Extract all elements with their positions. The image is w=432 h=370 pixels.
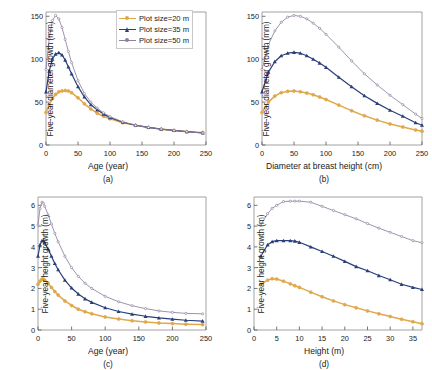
series-marker (157, 321, 160, 324)
plot-area-d: 051015202530350123456 (216, 185, 432, 370)
series-marker (415, 113, 417, 115)
series-marker (319, 27, 321, 29)
series-marker (185, 312, 187, 314)
series-line (262, 91, 422, 131)
series-marker (53, 290, 56, 293)
series-marker (90, 312, 93, 315)
x-tick-label: 100 (320, 149, 332, 158)
series-marker (104, 315, 107, 318)
series-marker (280, 91, 283, 94)
x-tick-label: 30 (386, 334, 394, 343)
x-tick-label: 20 (341, 334, 349, 343)
y-tick-label: 2 (232, 284, 251, 293)
x-tick-label: 250 (416, 149, 428, 158)
y-tick-label: 0 (232, 326, 251, 335)
y-tick-label: 0 (16, 326, 35, 335)
series-line (38, 241, 203, 321)
series-marker (310, 201, 312, 203)
series-marker (267, 213, 269, 215)
series-marker (282, 280, 285, 283)
series-marker (351, 60, 353, 62)
x-tick-label: 50 (290, 149, 298, 158)
series-marker (57, 241, 59, 243)
series-marker (77, 308, 80, 311)
y-axis-label-c: Five-year height growth (m) (40, 199, 50, 329)
series-marker (37, 224, 39, 226)
x-tick-label: 5 (275, 334, 279, 343)
series-marker (147, 126, 149, 128)
x-tick-label: 100 (104, 149, 116, 158)
series-marker (184, 323, 187, 326)
series-marker (96, 107, 98, 109)
series-marker (414, 128, 417, 131)
series-marker (306, 18, 308, 20)
series-marker (401, 125, 404, 128)
x-axis-label-b: Diameter at breast height (cm) (216, 161, 432, 171)
x-tick-label: 25 (363, 334, 371, 343)
series-marker (389, 94, 391, 96)
series-marker (50, 223, 52, 225)
series-marker (338, 46, 340, 48)
series-marker (402, 104, 404, 106)
y-tick-label: 0 (240, 141, 259, 150)
plot-area-b: 050100150200250050100150 (216, 0, 432, 185)
series-marker (344, 214, 346, 216)
series-marker (400, 318, 403, 321)
series-marker (96, 112, 99, 115)
subplot-d: 051015202530350123456 Five-year height g… (216, 185, 432, 370)
figure-panel-grid: 050100150200250050100150 Five-year diame… (0, 0, 432, 370)
y-tick-label: 3 (16, 263, 35, 272)
series-marker (271, 277, 274, 280)
y-tick-label: 4 (16, 242, 35, 251)
series-marker (158, 310, 160, 312)
series-marker (66, 65, 70, 69)
series-marker (276, 204, 278, 206)
series-marker (77, 275, 79, 277)
series-marker (332, 209, 334, 211)
y-tick-label: 5 (16, 222, 35, 231)
series-marker (378, 227, 380, 229)
axis-frame (254, 197, 422, 330)
series-marker (299, 90, 302, 93)
series-marker (312, 22, 314, 24)
series-marker (289, 200, 291, 202)
series-marker (376, 119, 379, 122)
series-marker (305, 92, 308, 95)
y-tick-label: 50 (24, 98, 43, 107)
x-tick-label: 100 (99, 334, 111, 343)
x-tick-label: 200 (166, 334, 178, 343)
legend-swatch-35m (119, 25, 136, 34)
x-tick-label: 10 (295, 334, 303, 343)
series-marker (274, 30, 276, 32)
series-marker (280, 21, 282, 23)
x-axis-label-d: Height (m) (216, 346, 432, 356)
y-tick-label: 150 (240, 12, 259, 21)
legend-item-2: Plot size=50 m (119, 35, 189, 46)
series-marker (103, 112, 105, 114)
panel-caption-c: (c) (0, 360, 216, 369)
x-tick-label: 0 (36, 334, 40, 343)
x-tick-label: 250 (200, 334, 212, 343)
legend-swatch-20m (119, 14, 136, 23)
series-marker (77, 80, 79, 82)
series-marker (53, 262, 57, 266)
series-marker (71, 62, 73, 64)
x-tick-label: 35 (409, 334, 417, 343)
series-marker (337, 104, 340, 107)
series-marker (202, 313, 204, 315)
y-axis-label-a: Five-year diameter growth (mm) (45, 9, 55, 149)
series-marker (70, 91, 73, 94)
series-marker (83, 102, 86, 105)
series-marker (144, 320, 147, 323)
series-marker (412, 240, 414, 242)
y-axis-label-d: Five-year height growth (m) (256, 199, 266, 329)
subplot-c: 0501001502002500123456 Five-year height … (0, 185, 216, 370)
series-marker (90, 101, 92, 103)
panel-caption-d: (d) (216, 360, 432, 369)
series-marker (171, 322, 174, 325)
series-marker (57, 90, 60, 93)
x-tick-label: 150 (133, 334, 145, 343)
series-marker (109, 116, 111, 118)
legend-label-0: Plot size=20 m (139, 14, 189, 23)
series-marker (366, 309, 369, 312)
